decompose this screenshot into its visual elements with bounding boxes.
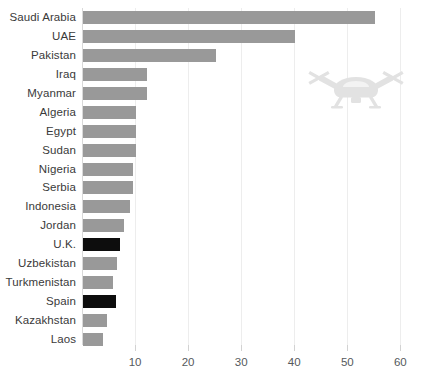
x-tick-label: 20	[182, 356, 195, 368]
category-label: Nigeria	[39, 160, 76, 179]
x-tick-label: 50	[341, 356, 354, 368]
tick-mark-20	[188, 345, 189, 351]
bar-row: Uzbekistan	[0, 254, 429, 273]
bar	[83, 125, 136, 138]
bar-row: Saudi Arabia	[0, 8, 429, 27]
x-tick-label: 60	[394, 356, 407, 368]
bar	[83, 68, 147, 81]
bar	[83, 200, 130, 213]
bar-row: Algeria	[0, 103, 429, 122]
bar-row: Sudan	[0, 141, 429, 160]
x-tick-label: 40	[288, 356, 301, 368]
bar	[83, 87, 147, 100]
bar	[83, 257, 117, 270]
category-label: Jordan	[40, 216, 76, 235]
tick-mark-60	[400, 345, 401, 351]
tick-mark-50	[347, 345, 348, 351]
bar-row: Spain	[0, 292, 429, 311]
category-label: Laos	[51, 330, 76, 349]
bar	[83, 106, 136, 119]
category-label: Indonesia	[25, 197, 76, 216]
category-label: Algeria	[40, 103, 77, 122]
bar-row: Myanmar	[0, 84, 429, 103]
category-label: Myanmar	[27, 84, 76, 103]
bar-row: Egypt	[0, 122, 429, 141]
category-label: Uzbekistan	[18, 254, 76, 273]
bar-row: Iraq	[0, 65, 429, 84]
category-label: Pakistan	[31, 46, 76, 65]
bar	[83, 295, 116, 308]
bar-row: U.K.	[0, 235, 429, 254]
bar-row: Pakistan	[0, 46, 429, 65]
category-label: Serbia	[42, 178, 76, 197]
x-tick-label: 10	[129, 356, 142, 368]
category-label: Sudan	[42, 141, 76, 160]
bar-chart: Saudi ArabiaUAEPakistanIraqMyanmarAlgeri…	[0, 0, 429, 383]
bar	[83, 219, 124, 232]
bar-rows: Saudi ArabiaUAEPakistanIraqMyanmarAlgeri…	[0, 8, 429, 349]
tick-mark-40	[294, 345, 295, 351]
bar	[83, 144, 136, 157]
bar	[83, 11, 375, 24]
category-label: Egypt	[46, 122, 76, 141]
category-label: Iraq	[56, 65, 76, 84]
bar	[83, 333, 103, 346]
tick-mark-30	[241, 345, 242, 351]
category-label: Turkmenistan	[6, 273, 76, 292]
category-label: UAE	[52, 27, 76, 46]
x-axis: 102030405060	[82, 345, 411, 383]
bar-row: Jordan	[0, 216, 429, 235]
bar-row: UAE	[0, 27, 429, 46]
category-label: U.K.	[53, 235, 76, 254]
bar	[83, 49, 216, 62]
bar-row: Kazakhstan	[0, 311, 429, 330]
category-label: Kazakhstan	[15, 311, 76, 330]
bar	[83, 276, 113, 289]
x-tick-label: 30	[235, 356, 248, 368]
bar-row: Indonesia	[0, 197, 429, 216]
tick-mark-10	[135, 345, 136, 351]
bar	[83, 314, 107, 327]
bar-row: Serbia	[0, 178, 429, 197]
bar	[83, 238, 120, 251]
bar	[83, 163, 133, 176]
bar-row: Turkmenistan	[0, 273, 429, 292]
category-label: Saudi Arabia	[10, 8, 76, 27]
bar	[83, 181, 133, 194]
bar	[83, 30, 295, 43]
bar-row: Nigeria	[0, 160, 429, 179]
category-label: Spain	[46, 292, 76, 311]
